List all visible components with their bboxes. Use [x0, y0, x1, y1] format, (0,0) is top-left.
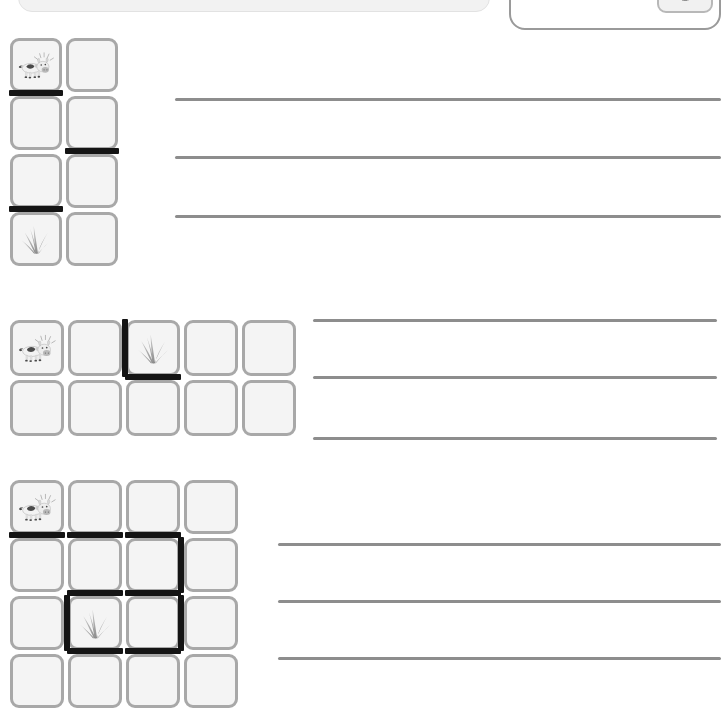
grid-tile[interactable]: [126, 480, 180, 534]
maze-wall-bottom: [9, 206, 63, 212]
grid-cell[interactable]: [66, 594, 124, 652]
grid-cell[interactable]: [182, 378, 240, 438]
grid-cell[interactable]: [182, 594, 240, 652]
grid-cell[interactable]: [182, 318, 240, 378]
answer-line[interactable]: [313, 319, 717, 322]
cow-icon: [16, 44, 56, 86]
cow-icon: [16, 326, 58, 370]
grid-tile[interactable]: [66, 154, 118, 208]
grid-tile[interactable]: [184, 596, 238, 650]
grid-cell[interactable]: [124, 652, 182, 710]
grid-cell[interactable]: [66, 378, 124, 438]
grid-tile[interactable]: [68, 538, 122, 592]
grid-tile[interactable]: [68, 480, 122, 534]
grid-cell[interactable]: [124, 536, 182, 594]
grid-cell[interactable]: [66, 318, 124, 378]
grid-cell[interactable]: [8, 478, 66, 536]
grid-tile[interactable]: [10, 96, 62, 150]
grid-tile[interactable]: [68, 320, 122, 376]
grid-cell[interactable]: [8, 318, 66, 378]
grid-tile[interactable]: [66, 96, 118, 150]
grid-tile[interactable]: [66, 212, 118, 266]
legend-tile: [657, 0, 713, 13]
grid-cell[interactable]: [182, 478, 240, 536]
grid-tile[interactable]: [242, 380, 296, 436]
grid-tile[interactable]: [68, 596, 122, 650]
answer-line[interactable]: [278, 543, 721, 546]
grid-cell[interactable]: [8, 652, 66, 710]
maze-wall-bottom: [67, 532, 123, 538]
maze-wall-bottom: [67, 648, 123, 654]
grid-tile[interactable]: [184, 654, 238, 708]
grid-cell[interactable]: [64, 210, 120, 268]
grid-tile[interactable]: [10, 596, 64, 650]
grid-tile[interactable]: [126, 320, 180, 376]
answer-line[interactable]: [175, 98, 721, 101]
answer-line[interactable]: [278, 600, 721, 603]
grid-tile[interactable]: [184, 538, 238, 592]
grid-cell[interactable]: [240, 318, 298, 378]
grid-tile[interactable]: [10, 154, 62, 208]
maze-wall-bottom: [125, 590, 181, 596]
maze-wall-left: [122, 319, 128, 377]
grid-cell[interactable]: [8, 536, 66, 594]
grass-icon: [19, 222, 52, 257]
grid-cell[interactable]: [66, 652, 124, 710]
grid-cell[interactable]: [8, 36, 64, 94]
grid-cell[interactable]: [124, 594, 182, 652]
answer-line[interactable]: [175, 156, 721, 159]
grid-tile[interactable]: [126, 654, 180, 708]
grass-icon: [136, 330, 171, 366]
grid-tile[interactable]: [126, 380, 180, 436]
grid-cell[interactable]: [66, 536, 124, 594]
grid-tile[interactable]: [184, 320, 238, 376]
grid-tile[interactable]: [10, 538, 64, 592]
grid-tile[interactable]: [66, 38, 118, 92]
answer-line[interactable]: [313, 376, 717, 379]
maze-wall-bottom: [9, 532, 65, 538]
grid-cell[interactable]: [64, 152, 120, 210]
grid-tile[interactable]: [184, 480, 238, 534]
grid-cell[interactable]: [182, 652, 240, 710]
grid-cell[interactable]: [64, 36, 120, 94]
grid-cell[interactable]: [8, 594, 66, 652]
grass-icon: [666, 0, 703, 4]
maze-wall-bottom: [9, 90, 63, 96]
maze-wall-bottom: [125, 374, 181, 380]
maze-wall-bottom: [67, 590, 123, 596]
puzzle-grid-3: [8, 478, 240, 710]
answer-line[interactable]: [278, 657, 721, 660]
grid-cell[interactable]: [8, 378, 66, 438]
grid-cell[interactable]: [182, 536, 240, 594]
grid-tile[interactable]: [68, 654, 122, 708]
grid-tile[interactable]: [184, 380, 238, 436]
grid-tile[interactable]: [242, 320, 296, 376]
grid-tile[interactable]: [10, 480, 64, 534]
maze-wall-bottom: [125, 532, 181, 538]
grid-tile[interactable]: [10, 38, 62, 92]
grid-cell[interactable]: [240, 378, 298, 438]
answer-line[interactable]: [313, 437, 717, 440]
maze-wall-left: [64, 595, 70, 651]
grid-cell[interactable]: [124, 378, 182, 438]
grid-tile[interactable]: [10, 654, 64, 708]
grid-tile[interactable]: [68, 380, 122, 436]
grid-tile[interactable]: [10, 212, 62, 266]
puzzle-grid-1: [8, 36, 120, 268]
grid-tile[interactable]: [10, 320, 64, 376]
grid-cell[interactable]: [8, 152, 64, 210]
grid-cell[interactable]: [124, 318, 182, 378]
grid-cell[interactable]: [8, 94, 64, 152]
grid-tile[interactable]: [126, 538, 180, 592]
maze-wall-bottom: [125, 648, 181, 654]
legend-key-box: Down 1: [509, 0, 721, 30]
grid-cell[interactable]: [66, 478, 124, 536]
grid-tile[interactable]: [10, 380, 64, 436]
puzzle-grid-2: [8, 318, 298, 438]
grid-cell[interactable]: [124, 478, 182, 536]
grid-tile[interactable]: [126, 596, 180, 650]
grid-cell[interactable]: [64, 94, 120, 152]
maze-wall-bottom: [65, 148, 119, 154]
answer-line[interactable]: [175, 215, 721, 218]
grid-cell[interactable]: [8, 210, 64, 268]
